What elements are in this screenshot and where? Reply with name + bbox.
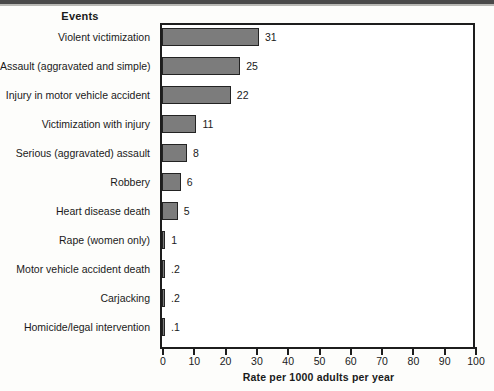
- bar-chart-figure: Events Violent victimization31Assault (a…: [0, 0, 494, 391]
- bar-track: 6: [162, 168, 475, 197]
- x-axis-tick-label: 30: [251, 355, 263, 367]
- bar: [162, 28, 259, 46]
- bar-row: Rape (women only)1: [0, 226, 494, 255]
- bar-category-label: Homicide/legal intervention: [0, 313, 154, 342]
- bar-track: 8: [162, 139, 475, 168]
- x-axis-tick-label: 10: [188, 355, 200, 367]
- bar-row: Motor vehicle accident death.2: [0, 255, 494, 284]
- bar: [162, 260, 165, 278]
- x-axis-tick-label: 90: [439, 355, 451, 367]
- bar-value-label: .2: [171, 284, 180, 313]
- x-axis-tick-label: 0: [160, 355, 166, 367]
- bar-track: 22: [162, 81, 475, 110]
- bar-category-label: Rape (women only): [0, 226, 154, 255]
- bar-category-label: Injury in motor vehicle accident: [0, 81, 154, 110]
- bar-row: Homicide/legal intervention.1: [0, 313, 494, 342]
- bar: [162, 318, 165, 336]
- bar-value-label: 31: [265, 23, 277, 52]
- bar-category-label: Violent victimization: [0, 23, 154, 52]
- bar-value-label: 5: [184, 197, 190, 226]
- bar-value-label: 22: [237, 81, 249, 110]
- bar-category-label: Motor vehicle accident death: [0, 255, 154, 284]
- bar-track: .1: [162, 313, 475, 342]
- bar-category-label: Carjacking: [0, 284, 154, 313]
- bar: [162, 115, 196, 133]
- bar-track: 31: [162, 23, 475, 52]
- scan-edge-top-secondary: [0, 4, 494, 6]
- bar-track: .2: [162, 284, 475, 313]
- x-axis-tick-label: 60: [345, 355, 357, 367]
- bar-track: 1: [162, 226, 475, 255]
- bar-category-label: Robbery: [0, 168, 154, 197]
- bar-category-label: Serious (aggravated) assault: [0, 139, 154, 168]
- bar: [162, 289, 165, 307]
- bar: [162, 202, 178, 220]
- bar-value-label: 1: [171, 226, 177, 255]
- bar-track: 25: [162, 52, 475, 81]
- bar-value-label: 6: [187, 168, 193, 197]
- category-column-header: Events: [6, 10, 154, 22]
- bar-value-label: 8: [193, 139, 199, 168]
- bar-row: Violent victimization31: [0, 23, 494, 52]
- x-axis-tick-label: 50: [314, 355, 326, 367]
- bar-rows-container: Violent victimization31Assault (aggravat…: [0, 23, 494, 348]
- bar: [162, 57, 240, 75]
- x-axis-tick-label: 100: [467, 355, 485, 367]
- x-axis-tick-label: 70: [376, 355, 388, 367]
- bar-row: Heart disease death5: [0, 197, 494, 226]
- bar-track: 11: [162, 110, 475, 139]
- bar-category-label: Victimization with injury: [0, 110, 154, 139]
- bar-value-label: .2: [171, 255, 180, 284]
- bar-row: Robbery6: [0, 168, 494, 197]
- bar-row: Injury in motor vehicle accident22: [0, 81, 494, 110]
- bar: [162, 144, 187, 162]
- bar-row: Assault (aggravated and simple)25: [0, 52, 494, 81]
- x-axis-tick-label: 20: [220, 355, 232, 367]
- bar-value-label: 25: [246, 52, 258, 81]
- bar-category-label: Assault (aggravated and simple): [0, 52, 154, 81]
- bar-track: .2: [162, 255, 475, 284]
- bar-value-label: 11: [202, 110, 213, 139]
- bar-value-label: .1: [171, 313, 180, 342]
- bar-row: Victimization with injury11: [0, 110, 494, 139]
- x-axis-tick-label: 40: [282, 355, 294, 367]
- bar-category-label: Heart disease death: [0, 197, 154, 226]
- bar-row: Carjacking.2: [0, 284, 494, 313]
- bar: [162, 173, 181, 191]
- bar-row: Serious (aggravated) assault8: [0, 139, 494, 168]
- x-axis-tick-label: 80: [408, 355, 420, 367]
- bar: [162, 231, 165, 249]
- x-axis-title: Rate per 1000 adults per year: [160, 371, 477, 383]
- bar: [162, 86, 231, 104]
- bar-track: 5: [162, 197, 475, 226]
